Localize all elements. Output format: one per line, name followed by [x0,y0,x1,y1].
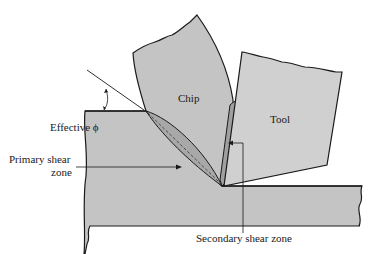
secondary-shear-zone-label: Secondary shear zone [196,232,292,244]
effective-phi-label: Effective ϕ [50,121,99,133]
primary-shear-zone-label-line2: zone [51,166,72,178]
chip-label: Chip [178,92,199,104]
tool-label: Tool [270,113,290,125]
primary-shear-zone-label-line1: Primary shear [9,153,70,165]
